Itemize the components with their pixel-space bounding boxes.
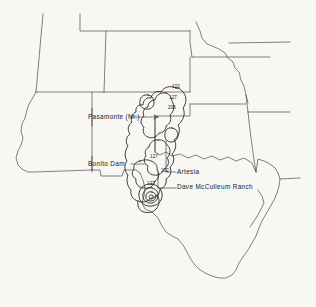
iowa-border-stub: [229, 42, 290, 43]
arizona-west-river-border: [16, 92, 92, 172]
place-label-dave-mcculleum-ranch: Dave McCulleum Ranch: [177, 184, 253, 190]
contour-label-206: 206: [168, 106, 176, 111]
fallout-contour-map: Pasamonte (Nr.) Bonito Dam Artesia Dave …: [0, 0, 316, 307]
red-river-border: [155, 116, 256, 172]
fallout-contours: [125, 87, 186, 213]
kansas-east-border: [246, 95, 248, 112]
contour-label-102-top: 102: [172, 85, 180, 90]
wyoming-colorado-divider: [104, 31, 106, 92]
place-label-bonito-dam: Bonito Dam: [88, 161, 125, 167]
state-boundaries: [16, 14, 300, 278]
place-label-pasamonte: Pasamonte (Nr.): [88, 114, 140, 120]
wyoming-north-border: [80, 14, 190, 31]
place-label-artesia: Artesia: [177, 169, 199, 175]
map-canvas: [0, 0, 316, 307]
contour-label-127-mid: 127: [150, 155, 158, 160]
contour-sublobe-east: [165, 128, 178, 142]
contour-label-127-top: 127: [169, 96, 177, 101]
contour-label-102-lower: 102: [161, 169, 169, 174]
texas-rio-grande-gulf-outline: [140, 159, 280, 278]
louisiana-border-stub: [280, 178, 300, 179]
contour-label-inner: 127: [147, 182, 155, 187]
contour-inner-ring-3: [146, 192, 156, 201]
nevada-west-border: [36, 14, 43, 92]
wyoming-east-border: [190, 31, 192, 57]
nebraska-east-river-border: [196, 22, 248, 103]
